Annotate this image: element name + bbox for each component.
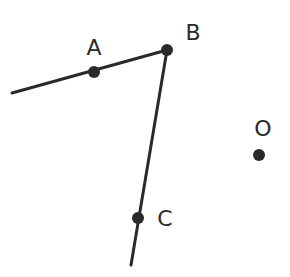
point-o: [253, 149, 265, 161]
label-a: A: [86, 35, 101, 60]
label-o: O: [254, 116, 271, 141]
point-a: [88, 66, 100, 78]
label-c: C: [157, 206, 172, 231]
segment-bc-ray: [131, 50, 167, 265]
point-b: [161, 44, 173, 56]
label-b: B: [185, 20, 200, 45]
geometry-diagram: A B C O: [0, 0, 290, 277]
point-c: [132, 212, 144, 224]
